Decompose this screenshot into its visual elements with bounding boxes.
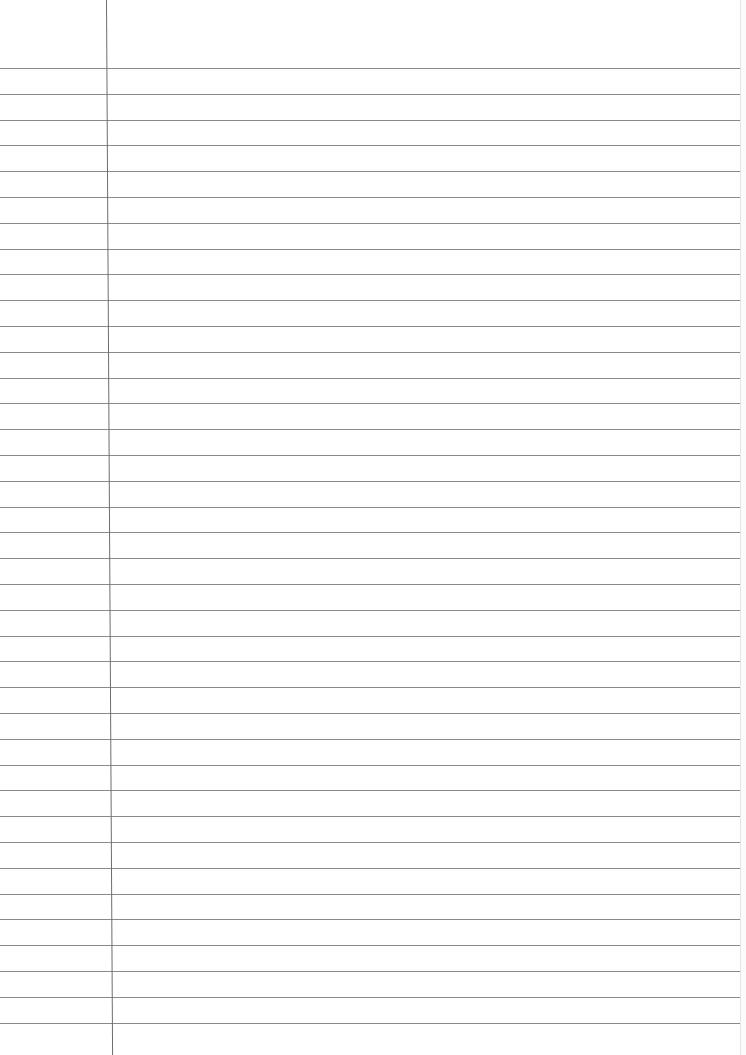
ruled-line xyxy=(0,274,740,275)
ruled-line xyxy=(0,687,740,688)
ruled-line xyxy=(0,481,740,482)
ruled-line xyxy=(0,403,740,404)
ruled-line xyxy=(0,352,740,353)
ruled-line xyxy=(0,610,740,611)
notebook-page xyxy=(0,0,741,1055)
ruled-line xyxy=(0,300,740,301)
ruled-line xyxy=(0,249,740,250)
ruled-line xyxy=(0,68,740,69)
ruled-line xyxy=(0,455,740,456)
ruled-line xyxy=(0,507,740,508)
ruled-line xyxy=(0,378,740,379)
ruled-line xyxy=(0,584,740,585)
ruled-line xyxy=(0,558,740,559)
ruled-line xyxy=(0,636,740,637)
ruled-line xyxy=(0,223,740,224)
margin-line xyxy=(106,0,113,1055)
ruled-line xyxy=(0,94,740,95)
ruled-line xyxy=(0,532,740,533)
ruled-line xyxy=(0,429,740,430)
ruled-line xyxy=(0,120,740,121)
ruled-line xyxy=(0,326,740,327)
ruled-line xyxy=(0,171,740,172)
ruled-line xyxy=(0,145,740,146)
ruled-line xyxy=(0,661,740,662)
ruled-line xyxy=(0,197,740,198)
